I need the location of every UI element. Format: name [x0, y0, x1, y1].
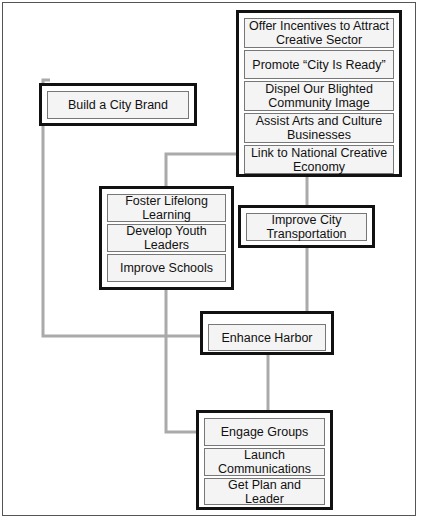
launch-communications-item[interactable]: Launch Communications — [204, 448, 325, 476]
offer-incentives-item[interactable]: Offer Incentives to Attract Creative Sec… — [244, 18, 394, 48]
education-group: Foster Lifelong Learning Develop Youth L… — [99, 186, 234, 290]
dispel-image-item[interactable]: Dispel Our Blighted Community Image — [244, 81, 394, 111]
assist-arts-item[interactable]: Assist Arts and Culture Businesses — [244, 113, 394, 143]
transportation-group: Improve City Transportation — [238, 205, 375, 248]
promote-city-ready-item[interactable]: Promote “City Is Ready” — [244, 50, 394, 79]
develop-youth-item[interactable]: Develop Youth Leaders — [107, 224, 226, 252]
improve-schools-item[interactable]: Improve Schools — [107, 254, 226, 282]
creative-sector-group: Offer Incentives to Attract Creative Sec… — [236, 10, 402, 177]
get-plan-leader-item[interactable]: Get Plan and Leader — [204, 478, 325, 505]
improve-transportation-item[interactable]: Improve City Transportation — [246, 213, 367, 241]
build-city-brand-item[interactable]: Build a City Brand — [47, 91, 189, 119]
foundation-group: Engage Groups Launch Communications Get … — [196, 410, 333, 510]
harbor-group: Enhance Harbor — [200, 311, 334, 355]
engage-groups-item[interactable]: Engage Groups — [204, 418, 325, 446]
enhance-harbor-item[interactable]: Enhance Harbor — [208, 324, 326, 351]
link-national-item[interactable]: Link to National Creative Economy — [244, 145, 394, 174]
foster-lifelong-item[interactable]: Foster Lifelong Learning — [107, 194, 226, 222]
city-brand-group: Build a City Brand — [39, 83, 197, 126]
